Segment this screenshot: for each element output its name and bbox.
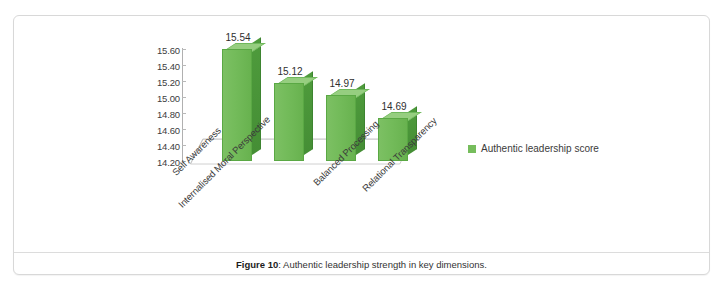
plot-area: 15.54 15.12 14.97 (182, 46, 427, 161)
y-tick-label: 15.40 (136, 62, 180, 72)
bar-group[interactable]: 15.12 (274, 83, 310, 161)
legend-swatch-icon (468, 145, 476, 153)
figure-caption-text: Authentic leadership strength in key dim… (283, 259, 487, 270)
y-tick-label: 15.00 (136, 94, 180, 104)
y-tick-label: 14.60 (136, 126, 180, 136)
bar-front-face (274, 83, 304, 161)
y-tick-label: 14.80 (136, 110, 180, 120)
figure-caption-number: Figure 10 (236, 259, 278, 270)
figure-panel: 15.60 15.40 15.20 15.00 14.80 14.60 14.4… (13, 15, 710, 275)
chart-area: 15.60 15.40 15.20 15.00 14.80 14.60 14.4… (14, 16, 711, 252)
legend-item-label: Authentic leadership score (481, 144, 599, 154)
y-tick-label: 15.20 (136, 78, 180, 88)
y-tick-label: 15.60 (136, 46, 180, 56)
y-axis-tick-labels: 15.60 15.40 15.20 15.00 14.80 14.60 14.4… (136, 46, 180, 158)
bar[interactable] (274, 83, 304, 161)
caption-divider (14, 252, 709, 253)
chart-legend: Authentic leadership score (468, 144, 599, 154)
figure-caption: Figure 10: Authentic leadership strength… (14, 259, 709, 271)
y-tick-label: 14.40 (136, 142, 180, 152)
x-axis-tick-labels: Self Awareness Internalised Moral Perspe… (164, 164, 464, 249)
